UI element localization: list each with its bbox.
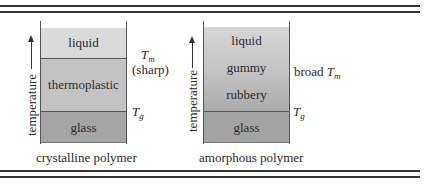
box-right-edge: [289, 21, 290, 144]
region-label-glass: glass: [234, 120, 260, 136]
region-label-gummy: gummy: [204, 60, 289, 76]
bottom-rule-inner: [0, 176, 420, 178]
tg-subscript: g: [300, 111, 305, 121]
tg-annotation: Tg: [293, 105, 305, 123]
tm-symbol: T: [327, 64, 334, 79]
region-liquid-gummy-rubbery-gradient: liquid gummy rubbery: [204, 27, 289, 111]
broad-tm-annotation: broad Tm: [294, 65, 341, 83]
region-label-rubbery: rubbery: [204, 87, 289, 103]
amorphous-polymer-diagram: temperature liquid gummy rubbery glass b…: [0, 0, 435, 186]
box-bottom-edge: [204, 142, 289, 143]
amorphous-caption: amorphous polymer: [199, 150, 303, 166]
temperature-axis-line: [192, 42, 193, 68]
region-label-liquid: liquid: [204, 33, 289, 49]
region-glass: glass: [204, 112, 289, 143]
temperature-axis-label: temperature: [185, 70, 201, 132]
tm-subscript: m: [334, 71, 341, 81]
bottom-rule-outer: [0, 170, 420, 172]
amorphous-phase-box: liquid gummy rubbery glass: [204, 27, 289, 143]
broad-tm-prefix: broad: [294, 64, 324, 79]
